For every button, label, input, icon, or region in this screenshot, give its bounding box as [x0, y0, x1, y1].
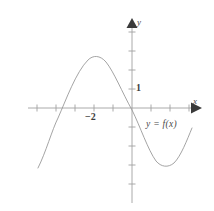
x-axis-label: x — [193, 97, 197, 106]
coordinate-plot — [0, 0, 214, 211]
x-tick-label-neg2: −2 — [85, 112, 96, 122]
y-axis-label: y — [137, 18, 141, 27]
y-axis-arrow-icon — [127, 18, 138, 28]
function-label: y = f(x) — [146, 120, 177, 130]
function-curve — [38, 56, 192, 168]
graph-figure: y x 1 −2 y = f(x) — [0, 0, 214, 211]
y-tick-label-1: 1 — [136, 83, 141, 93]
